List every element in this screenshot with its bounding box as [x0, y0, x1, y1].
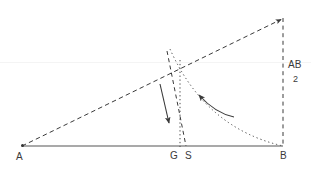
arc-construction [170, 49, 283, 146]
arrow-inward-motion [199, 95, 234, 117]
point-label-a: A [16, 152, 23, 162]
point-label-s: S [185, 151, 192, 161]
point-label-b: B [280, 151, 287, 161]
point-label-g: G [170, 151, 178, 161]
segment-hypotenuse-a-apex [22, 20, 281, 147]
segment-perpendicular-bisector [167, 51, 186, 146]
half-ab-numerator: AB [288, 60, 311, 70]
arrow-downward-motion [160, 84, 169, 123]
half-ab-label: AB 2 [288, 60, 311, 84]
geometry-canvas [0, 0, 311, 170]
geometry-diagram: A G S B AB 2 [0, 0, 311, 170]
half-ab-denominator: 2 [293, 75, 311, 84]
